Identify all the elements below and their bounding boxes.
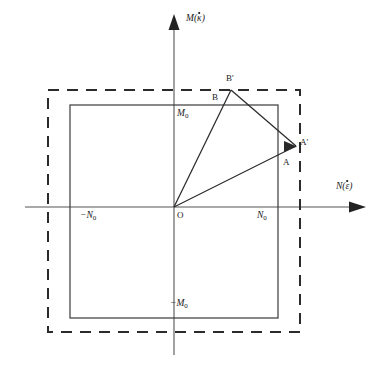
- tick-label-n0-negative: −N0: [80, 211, 96, 222]
- horizontal-axis-label: N(ε): [336, 182, 352, 192]
- tick-label-m0-positive: M0: [177, 109, 188, 120]
- path-segment-Bprime-to-Aprime: [231, 90, 296, 146]
- origin-label: O: [177, 211, 184, 220]
- arrowhead-at-Aprime: [284, 141, 297, 152]
- diagram-root: M(κ) N(ε) M0 −M0 N0 −N0 O B B' A A': [0, 0, 381, 380]
- vertical-axis-argument: κ: [197, 14, 202, 24]
- vertical-axis-symbol: M: [186, 13, 194, 23]
- vertical-axis-label: M(κ): [186, 14, 205, 24]
- interaction-diagram-svg: [0, 0, 381, 380]
- tick-label-m0-negative: −M0: [170, 299, 188, 310]
- tick-label-n0-positive: N0: [257, 211, 267, 222]
- horizontal-axis-arrowhead: [349, 202, 366, 213]
- point-label-Bprime: B': [226, 74, 234, 83]
- point-label-A: A: [283, 158, 290, 167]
- point-label-B: B: [212, 93, 218, 102]
- horizontal-axis-symbol: N: [336, 181, 342, 191]
- horizontal-axis-argument: ε: [346, 182, 350, 192]
- axes-group: [25, 14, 366, 355]
- vertical-axis-arrowhead: [169, 14, 180, 30]
- point-label-Aprime: A': [300, 138, 308, 147]
